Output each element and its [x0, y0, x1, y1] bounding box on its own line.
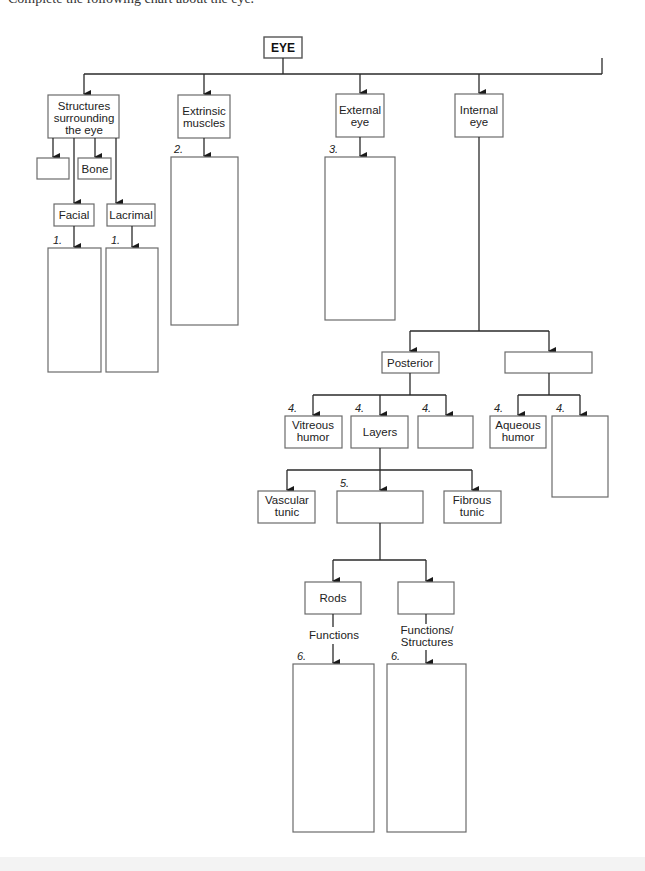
bone-label: Bone — [82, 163, 109, 175]
label-line: humor — [297, 431, 330, 443]
answer-number-1-lacrimal: 1. — [111, 234, 120, 246]
node-facial: Facial — [54, 204, 94, 226]
node-aqueous-humor: Aqueous humor — [490, 416, 546, 448]
label-line: Structures — [58, 100, 111, 112]
eye-concept-map: EYE Structures surrounding the eye Extri… — [0, 0, 645, 871]
answer-number-1-facial: 1. — [53, 234, 62, 246]
answer-number-3: 3. — [329, 143, 338, 155]
node-internal-eye: Internal eye — [455, 94, 503, 137]
root-node-eye: EYE — [264, 37, 302, 58]
node-blank-layer-5[interactable] — [337, 491, 423, 523]
answer-number-4-layers: 4. — [355, 402, 364, 414]
label-line: Internal — [460, 104, 498, 116]
node-posterior: Posterior — [382, 352, 439, 373]
node-extrinsic-muscles: Extrinsic muscles — [178, 95, 230, 138]
node-lacrimal: Lacrimal — [107, 204, 155, 226]
answer-box-3-external[interactable] — [325, 157, 395, 320]
node-blank-posterior-4[interactable] — [418, 416, 473, 448]
rods-label: Rods — [320, 592, 347, 604]
answer-box-6-cones[interactable] — [387, 664, 466, 832]
node-bone: Bone — [78, 158, 111, 179]
node-rods: Rods — [305, 582, 361, 614]
label-line: eye — [351, 116, 370, 128]
root-label: EYE — [271, 41, 295, 55]
answer-number-4-anterior-blank: 4. — [556, 402, 565, 414]
label-line: Vascular — [265, 494, 309, 506]
node-blank-cones[interactable] — [398, 582, 454, 614]
node-blank-anterior-4[interactable] — [552, 416, 608, 497]
posterior-label: Posterior — [387, 357, 433, 369]
node-blank-anterior[interactable] — [505, 352, 592, 373]
page-bottom-edge — [0, 857, 645, 871]
cones-functions-label: Functions/ — [400, 624, 454, 636]
answer-number-6-cones: 6. — [391, 650, 400, 662]
answer-box-1-lacrimal[interactable] — [106, 248, 158, 372]
answer-number-5: 5. — [340, 477, 349, 489]
facial-label: Facial — [59, 209, 90, 221]
answer-number-4-vitreous: 4. — [288, 402, 297, 414]
node-external-eye: External eye — [336, 94, 384, 137]
answer-number-4-aqueous: 4. — [494, 402, 503, 414]
label-line: humor — [502, 431, 535, 443]
label-line: Fibrous — [453, 494, 492, 506]
node-structures-surrounding-eye: Structures surrounding the eye — [48, 95, 119, 138]
node-fibrous-tunic: Fibrous tunic — [444, 491, 501, 523]
label-line: tunic — [275, 506, 300, 518]
answer-box-1-facial[interactable] — [48, 248, 101, 372]
label-line: the eye — [65, 124, 103, 136]
label-line: muscles — [183, 117, 225, 129]
node-layers: Layers — [351, 416, 408, 448]
label-line: eye — [470, 116, 489, 128]
node-blank-structure[interactable] — [37, 158, 69, 179]
label-line: External — [339, 104, 381, 116]
label-line: tunic — [460, 506, 485, 518]
rods-functions-label: Functions — [309, 629, 359, 641]
layers-label: Layers — [363, 426, 398, 438]
label-line: Aqueous — [495, 419, 541, 431]
lacrimal-label: Lacrimal — [109, 209, 152, 221]
answer-number-2: 2. — [173, 143, 183, 155]
label-line: surrounding — [54, 112, 115, 124]
node-vitreous-humor: Vitreous humor — [285, 416, 342, 448]
answer-box-2-extrinsic[interactable] — [171, 157, 238, 325]
label-line: Vitreous — [292, 419, 334, 431]
answer-number-4-posterior-blank: 4. — [422, 402, 431, 414]
answer-box-6-rods[interactable] — [293, 664, 374, 832]
cones-structures-label: Structures — [401, 636, 454, 648]
node-vascular-tunic: Vascular tunic — [258, 491, 315, 523]
answer-number-6-rods: 6. — [297, 650, 306, 662]
label-line: Extrinsic — [182, 105, 226, 117]
